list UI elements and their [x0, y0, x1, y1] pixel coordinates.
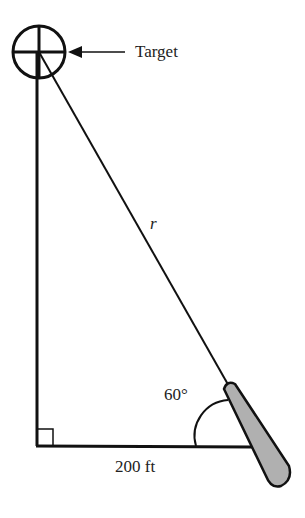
arrow-icon: [68, 46, 125, 58]
bat-icon: [224, 383, 290, 487]
hypotenuse-line: [39, 52, 230, 388]
target-label: Target: [135, 43, 178, 60]
angle-label: 60°: [164, 386, 188, 403]
hypotenuse-label: r: [150, 215, 157, 232]
right-angle-marker: [37, 429, 53, 446]
angle-arc: [195, 400, 228, 446]
base-side: [36, 446, 252, 447]
triangle-diagram: [0, 0, 305, 518]
base-label: 200 ft: [115, 458, 155, 475]
